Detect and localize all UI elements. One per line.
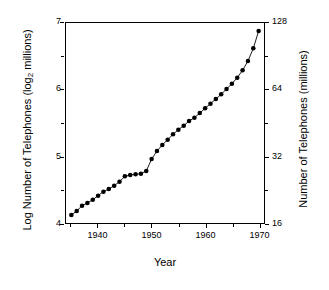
data-point <box>246 59 251 64</box>
data-point <box>80 203 85 208</box>
y-axis-left-minor-tick <box>61 56 64 57</box>
series-line <box>71 31 258 215</box>
y-axis-left-title-suffix: millions) <box>21 29 33 72</box>
x-axis-minor-tick <box>70 224 71 227</box>
data-point <box>240 68 245 73</box>
x-axis-tick-label: 1960 <box>186 231 226 240</box>
y-axis-right-tick-label: 32 <box>272 152 282 161</box>
data-point <box>198 111 203 116</box>
y-axis-right-tick <box>265 224 269 225</box>
y-axis-right-tick <box>265 157 269 158</box>
y-axis-right-title: Number of Telephones (millions) <box>297 27 309 231</box>
x-axis-minor-tick <box>233 224 234 227</box>
data-point <box>149 157 154 162</box>
data-point <box>181 123 186 128</box>
data-point <box>133 172 138 177</box>
data-point <box>192 115 197 120</box>
data-point <box>101 189 106 194</box>
y-axis-right-minor-tick <box>265 123 268 124</box>
x-axis-tick-label: 1950 <box>131 231 171 240</box>
data-point <box>171 132 176 137</box>
y-axis-left-tick-label: 5 <box>56 152 61 161</box>
y-axis-right-tick <box>265 22 269 23</box>
data-point <box>85 201 90 206</box>
y-axis-right-minor-tick <box>265 56 268 57</box>
x-axis-minor-tick <box>124 224 125 227</box>
x-axis-tick <box>151 224 152 228</box>
x-axis-tick-label: 1940 <box>77 231 117 240</box>
x-axis-title: Year <box>65 256 265 268</box>
data-point <box>208 101 213 106</box>
data-point <box>203 106 208 111</box>
y-axis-right-tick-label: 64 <box>272 84 282 93</box>
y-axis-left-title-prefix: Log Number of Telephones (log <box>21 77 33 230</box>
y-axis-right-tick <box>265 89 269 90</box>
data-point <box>230 81 235 86</box>
data-point <box>117 179 122 184</box>
y-axis-left-minor-tick <box>61 190 64 191</box>
data-point <box>96 193 101 198</box>
data-point <box>219 92 224 97</box>
data-point <box>176 127 181 132</box>
chart-figure: Log Number of Telephones (log2 millions)… <box>0 0 329 290</box>
y-axis-right-tick-label: 128 <box>272 17 287 26</box>
y-axis-left-title: Log Number of Telephones (log2 millions) <box>21 28 35 232</box>
data-point <box>256 29 261 34</box>
data-point <box>165 137 170 142</box>
y-axis-left-tick-label: 6 <box>56 84 61 93</box>
data-point <box>123 174 128 179</box>
data-point <box>235 75 240 80</box>
y-axis-left-minor-tick <box>61 123 64 124</box>
y-axis-right-tick-label: 16 <box>272 219 282 228</box>
data-point <box>187 119 192 124</box>
data-point <box>90 197 95 202</box>
x-axis-tick <box>206 224 207 228</box>
data-point <box>155 149 160 154</box>
data-point <box>224 87 229 92</box>
data-point <box>160 143 165 148</box>
x-axis-tick <box>260 224 261 228</box>
data-point <box>214 97 219 102</box>
data-point <box>74 209 79 214</box>
plot-frame <box>65 22 265 224</box>
y-axis-left-title-subscript: 2 <box>26 73 35 77</box>
y-axis-left-tick-label: 7 <box>56 17 61 26</box>
data-point <box>69 213 74 218</box>
data-point <box>107 187 112 192</box>
data-point <box>251 46 256 51</box>
x-axis-tick-label: 1970 <box>240 231 280 240</box>
plot-area <box>66 23 264 223</box>
data-point <box>128 173 133 178</box>
x-axis-minor-tick <box>179 224 180 227</box>
data-series-telephones <box>66 23 264 223</box>
data-point <box>112 183 117 188</box>
y-axis-left-tick-label: 4 <box>56 219 61 228</box>
data-point <box>144 169 149 174</box>
y-axis-right-minor-tick <box>265 190 268 191</box>
data-point <box>139 171 144 176</box>
x-axis-tick <box>97 224 98 228</box>
